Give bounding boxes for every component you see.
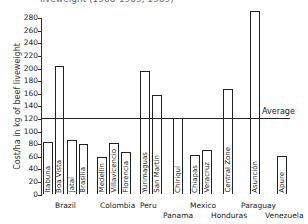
y-tick bbox=[38, 144, 42, 145]
bar: Apure bbox=[277, 156, 287, 194]
y-tick bbox=[38, 182, 42, 183]
y-tick bbox=[38, 169, 42, 170]
y-tick-label: 220 bbox=[24, 52, 38, 60]
country-label: Panama bbox=[163, 211, 193, 220]
bar: San Martín bbox=[152, 95, 162, 195]
y-tick bbox=[38, 81, 42, 82]
bar: Villavicencio bbox=[109, 143, 119, 195]
bar-label: Florencia bbox=[122, 161, 130, 195]
y-tick bbox=[38, 157, 42, 158]
chart-title: liveweight (1968-1969, 1969) bbox=[40, 0, 174, 4]
y-tick-label: 260 bbox=[24, 27, 38, 35]
bar-label: Chiapas bbox=[191, 165, 199, 195]
y-tick bbox=[38, 195, 42, 196]
country-label: Brazil bbox=[55, 201, 76, 210]
country-label: Honduras bbox=[211, 211, 247, 220]
bar-label: Apure bbox=[278, 172, 286, 195]
y-tick-label: 40 bbox=[28, 165, 38, 173]
bar-label: Chiriquí bbox=[174, 166, 182, 195]
bar: Itabuna bbox=[43, 142, 53, 195]
y-tick-label: 120 bbox=[24, 115, 38, 123]
bar: Central Zone bbox=[223, 89, 233, 194]
y-tick-label: 100 bbox=[24, 128, 38, 136]
bar: Yurimaguas bbox=[140, 71, 150, 194]
bar-label: Asunción bbox=[251, 161, 259, 195]
bar: Chiapas bbox=[190, 155, 200, 195]
y-tick-label: 20 bbox=[28, 178, 38, 186]
bar-label: Itabuna bbox=[44, 166, 52, 195]
country-label: Colombia bbox=[100, 201, 135, 210]
bar: Veracruz bbox=[202, 150, 212, 194]
y-tick bbox=[38, 132, 42, 133]
y-tick-label: 240 bbox=[24, 39, 38, 47]
y-tick bbox=[38, 18, 42, 19]
y-tick bbox=[38, 43, 42, 44]
y-tick bbox=[38, 106, 42, 107]
y-tick bbox=[38, 31, 42, 32]
bar-label: Villavicencio bbox=[110, 149, 118, 195]
bar-label: Central Zone bbox=[224, 147, 232, 195]
bar: Asunción bbox=[250, 11, 260, 195]
bar-label: Boa Vista bbox=[56, 160, 63, 195]
bar: Boa Vista bbox=[55, 66, 64, 195]
bar-label: Yurimaguas bbox=[141, 152, 149, 195]
y-tick bbox=[38, 69, 42, 70]
bar: Jataí bbox=[67, 140, 77, 195]
bar: Medellín bbox=[97, 157, 107, 195]
bar: Chiriquí bbox=[173, 118, 183, 195]
bar-label: Brasília bbox=[80, 167, 87, 195]
y-tick-label: 80 bbox=[28, 140, 38, 148]
y-tick bbox=[38, 94, 42, 95]
bar-label: Veracruz bbox=[203, 162, 211, 195]
country-label: Mexico bbox=[190, 201, 216, 210]
y-tick-label: 280 bbox=[24, 14, 38, 22]
average-label: Average bbox=[262, 107, 295, 116]
bar-label: Medellín bbox=[98, 163, 106, 194]
bar: Florencia bbox=[121, 152, 131, 195]
y-tick-label: 160 bbox=[24, 90, 38, 98]
bar: Brasília bbox=[79, 144, 88, 194]
bar-label: San Martín bbox=[153, 155, 161, 195]
y-tick-label: 200 bbox=[24, 65, 38, 73]
y-tick-label: 180 bbox=[24, 77, 38, 85]
country-label: Paraguay bbox=[241, 201, 276, 210]
average-line bbox=[41, 118, 290, 119]
bar-label: Jataí bbox=[68, 177, 76, 194]
y-tick-label: 0 bbox=[33, 191, 38, 199]
y-tick-label: 60 bbox=[28, 153, 38, 161]
y-axis-label: Cost/ha in kg of beef liveweight bbox=[13, 32, 22, 182]
y-tick-label: 140 bbox=[24, 102, 38, 110]
country-label: Venezuela bbox=[265, 211, 304, 220]
y-tick bbox=[38, 56, 42, 57]
country-label: Peru bbox=[140, 201, 157, 210]
